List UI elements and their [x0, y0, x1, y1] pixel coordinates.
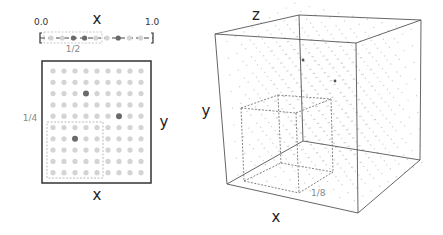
grid-point: [288, 41, 289, 42]
grid-point: [331, 80, 332, 81]
grid-point: [275, 176, 276, 177]
grid-point: [105, 136, 110, 141]
grid-point: [421, 162, 422, 163]
grid-point: [329, 139, 330, 140]
grid-point: [296, 82, 297, 83]
grid-point: [367, 140, 368, 141]
grid-point: [354, 124, 355, 125]
grid-point: [310, 144, 311, 145]
grid-point: [317, 47, 318, 48]
grid-point: [331, 34, 332, 35]
grid-point: [275, 100, 276, 101]
grid-point: [259, 51, 260, 52]
grid-point: [388, 76, 389, 77]
grid-point: [249, 144, 250, 145]
grid-point: [116, 102, 121, 107]
grid-point: [116, 91, 121, 96]
grid-point: [419, 128, 420, 129]
grid-point: [376, 106, 377, 107]
grid-point: [348, 146, 349, 147]
grid-point: [50, 125, 55, 130]
grid-point: [334, 130, 335, 131]
grid-point: [310, 69, 311, 70]
grid-point: [301, 132, 302, 133]
grid-point: [291, 91, 292, 92]
grid-point: [308, 128, 309, 129]
grid-point: [405, 67, 406, 68]
grid-point: [368, 140, 369, 141]
z-axis-label-3d: z: [252, 6, 260, 24]
highlighted-point-3d: [334, 80, 337, 83]
grid-point: [261, 143, 262, 144]
grid-point: [236, 158, 237, 159]
grid-point: [338, 180, 339, 181]
grid-point: [320, 51, 321, 52]
grid-point: [283, 20, 284, 21]
grid-point: [370, 69, 371, 70]
grid-point: [346, 175, 347, 176]
grid-point: [382, 143, 383, 144]
grid-point: [309, 98, 310, 99]
grid-point: [299, 116, 300, 117]
grid-point: [286, 70, 287, 71]
grid-point: [316, 152, 317, 153]
grid-point: [270, 138, 271, 139]
grid-point: [313, 56, 314, 57]
grid-point: [330, 155, 331, 156]
grid-point: [325, 147, 326, 148]
grid-point: [333, 189, 334, 190]
grid-point: [316, 31, 317, 32]
grid-point: [72, 125, 77, 130]
grid-point: [393, 97, 394, 98]
grid-point: [353, 137, 354, 138]
panel-1d: 0.0 x 1.0 1/2: [34, 10, 160, 54]
grid-point: [384, 55, 385, 56]
grid-point: [341, 184, 342, 185]
grid-point: [105, 91, 110, 96]
grid-point: [270, 34, 271, 35]
grid-point: [333, 38, 334, 39]
grid-point: [407, 159, 408, 160]
grid-point: [235, 36, 236, 37]
grid-point: [339, 151, 340, 152]
highlighted-point-3d: [302, 59, 305, 62]
grid-point: [294, 154, 295, 155]
grid-point: [138, 159, 143, 164]
grid-point: [283, 171, 284, 172]
grid-point: [303, 119, 304, 120]
grid-point: [274, 101, 275, 102]
grid-point: [393, 143, 394, 144]
grid-point: [412, 45, 413, 46]
grid-point: [127, 80, 132, 85]
grid-point: [389, 93, 390, 94]
grid-point: [227, 41, 228, 42]
grid-point: [308, 52, 309, 53]
grid-point: [241, 44, 242, 45]
grid-point: [354, 49, 355, 50]
grid-point: [372, 102, 373, 103]
grid-point: [368, 35, 369, 36]
grid-point: [288, 146, 289, 147]
grid-point: [354, 78, 355, 79]
grid-point: [303, 90, 304, 91]
grid-point: [312, 27, 313, 28]
grid-point: [351, 167, 352, 168]
grid-point: [353, 79, 354, 80]
grid-point: [270, 80, 271, 81]
grid-point: [416, 95, 417, 96]
grid-point: [352, 166, 353, 167]
grid-point: [252, 177, 253, 178]
grid-point: [72, 80, 77, 85]
grid-point: [238, 69, 239, 70]
grid-point: [316, 135, 317, 136]
grid-point: [252, 27, 253, 28]
grid-point: [397, 147, 398, 148]
grid-point: [50, 80, 55, 85]
grid-point: [372, 161, 373, 162]
y-axis-label-3d: y: [202, 102, 211, 120]
grid-point: [344, 83, 345, 84]
grid-point: [60, 35, 65, 40]
grid-point: [94, 170, 99, 175]
grid-point: [348, 87, 349, 88]
grid-point: [390, 168, 391, 169]
